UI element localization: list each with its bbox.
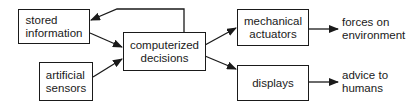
node-label: decisions bbox=[130, 52, 199, 65]
node-label: actuators bbox=[244, 28, 302, 41]
output-label: advice to bbox=[342, 69, 388, 82]
output-label: humans bbox=[342, 82, 388, 95]
node-displays: displays bbox=[237, 65, 309, 101]
node-artificial-sensors: artificial sensors bbox=[39, 62, 93, 101]
edge-decisions-to-stored bbox=[91, 9, 184, 32]
node-label: sensors bbox=[46, 82, 86, 95]
node-computerized-decisions: computerized decisions bbox=[123, 32, 206, 71]
node-mechanical-actuators: mechanical actuators bbox=[237, 9, 309, 46]
node-label: displays bbox=[252, 77, 294, 90]
node-stored-information: stored information bbox=[18, 9, 90, 44]
node-label: artificial bbox=[46, 69, 86, 82]
node-label: stored bbox=[26, 14, 83, 27]
output-label: environment bbox=[342, 29, 405, 42]
edge-decisions-to-displays bbox=[205, 56, 236, 69]
edge-decisions-to-actuators bbox=[205, 28, 236, 45]
node-label: computerized bbox=[130, 39, 199, 52]
node-label: mechanical bbox=[244, 15, 302, 28]
edge-stored-to-decisions bbox=[90, 33, 122, 47]
node-label: information bbox=[26, 27, 83, 40]
diagram: stored information artificial sensors co… bbox=[0, 0, 414, 112]
output-advice-to-humans: advice to humans bbox=[342, 69, 388, 95]
edge-sensors-to-decisions bbox=[93, 59, 122, 77]
output-forces-on-environment: forces on environment bbox=[342, 16, 405, 42]
output-label: forces on bbox=[342, 16, 405, 29]
